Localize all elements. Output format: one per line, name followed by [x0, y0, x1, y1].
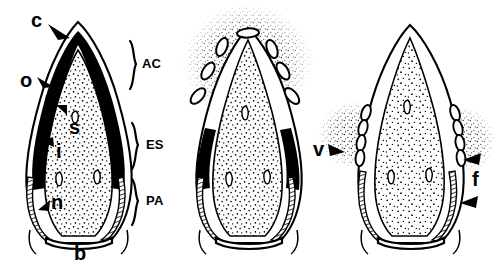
label-i: i	[56, 141, 62, 161]
label-region-pa: PA	[146, 194, 164, 207]
panel2-nucleus	[264, 170, 270, 184]
panel2-basal-wisp-left	[199, 230, 206, 254]
panel1-nucleus	[56, 172, 62, 186]
panel-3-illustration	[316, 25, 498, 254]
bracket-ES	[132, 123, 138, 169]
label-b: b	[74, 243, 86, 263]
label-s: s	[69, 117, 80, 137]
label-o: o	[20, 70, 32, 90]
label-v: v	[313, 139, 324, 159]
panel3-basal-wisp-right	[453, 230, 460, 254]
bracket-AC	[130, 41, 136, 89]
panel2-nucleus	[242, 106, 248, 120]
panel3-nucleus	[426, 168, 432, 182]
bracket-PA	[132, 179, 138, 225]
panel3-basal-wisp-left	[361, 230, 368, 254]
panel2-nucleus	[226, 172, 232, 186]
panel3-nucleus	[404, 100, 410, 114]
leader-arrow-c	[48, 24, 70, 40]
label-c: c	[31, 10, 42, 30]
panel1-nucleus	[94, 170, 100, 184]
panel-2-illustration	[180, 4, 316, 254]
panel-1-illustration	[26, 22, 138, 254]
label-region-es: ES	[146, 138, 164, 151]
panel1-basal-wisp-left	[29, 230, 36, 254]
label-f: f	[472, 169, 479, 189]
panel3-nucleus	[388, 170, 394, 184]
label-region-ac: AC	[142, 57, 161, 70]
panel2-basal-wisp-right	[291, 230, 298, 254]
label-n: n	[51, 192, 63, 212]
panel1-basal-wisp-right	[121, 230, 128, 254]
figure-canvas: c o s i n b v f AC ES PA	[0, 0, 501, 273]
